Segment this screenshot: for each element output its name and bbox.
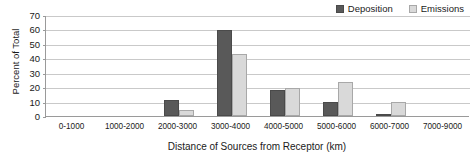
plot-area (45, 16, 469, 117)
x-tick-label-7000-9000: 7000-9000 (416, 122, 469, 131)
bar-group (152, 15, 205, 116)
bar-deposition-6000-7000 (376, 114, 391, 116)
y-tick-label-30: 30 (14, 69, 40, 78)
bar-group (46, 15, 99, 116)
bar-deposition-3000-4000 (217, 30, 232, 116)
bar-group (99, 15, 152, 116)
bar-group (258, 15, 311, 116)
x-tick-label-2000-3000: 2000-3000 (151, 122, 204, 131)
legend-item-deposition: Deposition (336, 3, 393, 14)
bar-emissions-3000-4000 (232, 54, 247, 116)
x-tick-label-6000-7000: 6000-7000 (363, 122, 416, 131)
x-tick-label-3000-4000: 3000-4000 (204, 122, 257, 131)
bar-group (311, 15, 364, 116)
legend-label-deposition: Deposition (348, 3, 393, 14)
y-tick-label-20: 20 (14, 83, 40, 92)
y-tick-label-10: 10 (14, 98, 40, 107)
bar-emissions-5000-6000 (338, 82, 353, 116)
legend-swatch-emissions (409, 5, 417, 13)
bar-emissions-2000-3000 (179, 110, 194, 116)
bar-group (417, 15, 470, 116)
bar-groups (46, 15, 470, 116)
bar-chart: Percent of Total 706050403020100 0-10001… (0, 0, 474, 160)
bar-deposition-2000-3000 (164, 100, 179, 116)
bar-deposition-5000-6000 (323, 102, 338, 116)
gridline-0 (46, 117, 470, 118)
bar-group (205, 15, 258, 116)
y-tick-label-40: 40 (14, 54, 40, 63)
bar-deposition-4000-5000 (270, 90, 285, 116)
x-tick-label-5000-6000: 5000-6000 (310, 122, 363, 131)
bar-group (364, 15, 417, 116)
bar-emissions-6000-7000 (391, 102, 406, 116)
x-tick-label-4000-5000: 4000-5000 (257, 122, 310, 131)
y-tick-label-50: 50 (14, 40, 40, 49)
x-axis-title: Distance of Sources from Receptor (km) (45, 141, 469, 152)
legend-item-emissions: Emissions (409, 3, 464, 14)
x-axis-tick-labels: 0-10001000-20002000-30003000-40004000-50… (45, 122, 469, 131)
legend-swatch-deposition (336, 5, 344, 13)
y-tick-label-70: 70 (14, 11, 40, 20)
y-tick-mark-0 (43, 117, 46, 118)
x-tick-label-1000-2000: 1000-2000 (98, 122, 151, 131)
y-tick-label-0: 0 (14, 112, 40, 121)
bar-emissions-4000-5000 (285, 88, 300, 116)
legend-label-emissions: Emissions (421, 3, 464, 14)
y-tick-label-60: 60 (14, 25, 40, 34)
x-tick-label-0-1000: 0-1000 (45, 122, 98, 131)
chart-legend: Deposition Emissions (332, 2, 468, 15)
